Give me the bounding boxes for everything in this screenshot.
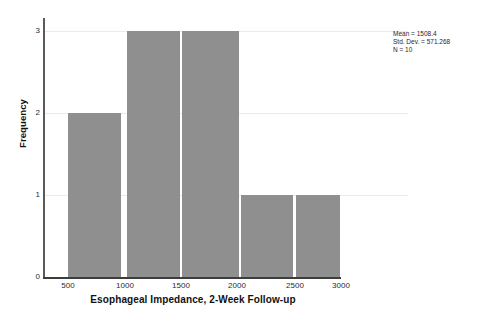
bar-bin-2 — [182, 31, 239, 277]
x-tick-label-1000: 1000 — [105, 281, 145, 290]
stat-n: N = 10 — [393, 46, 450, 54]
x-tick-label-2000: 2000 — [217, 281, 257, 290]
x-tick-label-3000: 3000 — [321, 281, 361, 290]
x-axis-title: Esophageal Impedance, 2-Week Follow-up — [44, 294, 342, 305]
stat-std-dev: Std. Dev. = 571.268 — [393, 38, 450, 46]
x-tick-label-500: 500 — [48, 281, 88, 290]
bar-bin-1 — [127, 31, 180, 277]
plot-area — [44, 18, 408, 277]
bar-series — [44, 18, 408, 277]
stat-mean: Mean = 1508.4 — [393, 30, 450, 38]
y-tick-label-3: 3 — [18, 26, 40, 35]
y-axis-title: Frequency — [17, 64, 28, 184]
x-tick-label-1500: 1500 — [161, 281, 201, 290]
statistics-annotation: Mean = 1508.4 Std. Dev. = 571.268 N = 10 — [393, 30, 450, 54]
y-axis-line — [43, 18, 45, 278]
bar-bin-0 — [68, 113, 121, 277]
y-tick-label-0: 0 — [18, 272, 40, 281]
bar-bin-4 — [296, 195, 340, 277]
x-tick-label-2500: 2500 — [275, 281, 315, 290]
y-tick-label-1: 1 — [18, 190, 40, 199]
x-axis-line — [43, 277, 341, 279]
bar-bin-3 — [241, 195, 293, 277]
histogram-chart: 3 2 1 0 500 1000 1500 2000 2500 3000 Fre… — [0, 0, 492, 316]
